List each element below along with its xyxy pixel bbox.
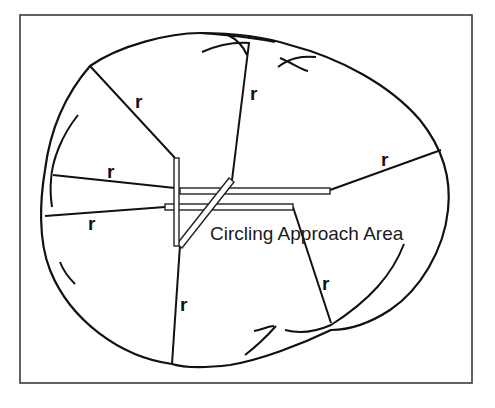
circling-approach-diagram: r r r r r r r Circling Approach Area — [0, 0, 495, 408]
radius-label-left-lower: r — [88, 213, 96, 234]
radius-label-right: r — [381, 149, 389, 170]
radius-label-left-upper: r — [107, 161, 115, 182]
bottom-right-arc-inner — [285, 244, 404, 332]
horizontal-runway-lower — [165, 204, 293, 210]
radius-label-bottom-right: r — [322, 273, 330, 294]
top-arc-right-cross — [280, 58, 308, 71]
radius-label-bottom: r — [180, 294, 188, 315]
radius-line-bottom — [172, 245, 180, 364]
radius-line-upper-left — [90, 66, 175, 158]
vertical-runway — [174, 158, 179, 246]
radius-line-top — [232, 43, 249, 180]
circling-approach-area-label: Circling Approach Area — [210, 223, 404, 244]
radius-label-top: r — [250, 83, 258, 104]
radius-line-left-lower — [45, 207, 165, 216]
horizontal-runway-upper — [180, 188, 330, 194]
lower-left-small-arc — [60, 262, 75, 284]
radius-label-upper-left: r — [135, 91, 143, 112]
